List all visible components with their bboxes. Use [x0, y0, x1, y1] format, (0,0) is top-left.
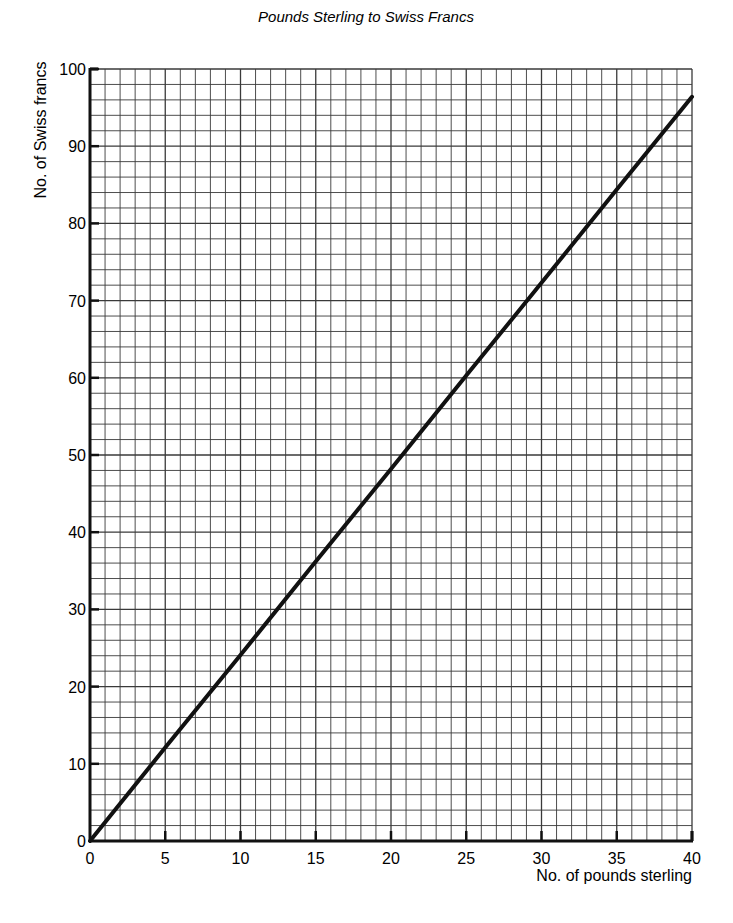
grid: [90, 69, 692, 841]
y-tick-label: 50: [68, 447, 86, 464]
y-tick-label: 0: [77, 833, 86, 850]
x-tick-label: 0: [86, 850, 95, 867]
x-tick-label: 5: [161, 850, 170, 867]
conversion-chart: Pounds Sterling to Swiss Francs 05101520…: [0, 0, 733, 923]
y-tick-label: 40: [68, 524, 86, 541]
x-tick-label: 40: [683, 850, 701, 867]
x-tick-label: 10: [232, 850, 250, 867]
x-tick-label: 30: [533, 850, 551, 867]
x-tick-label: 20: [382, 850, 400, 867]
y-axis-label: No. of Swiss francs: [32, 62, 49, 199]
y-tick-label: 100: [59, 61, 86, 78]
x-tick-label: 35: [608, 850, 626, 867]
y-tick-label: 20: [68, 679, 86, 696]
x-tick-label: 25: [457, 850, 475, 867]
y-tick-label: 30: [68, 601, 86, 618]
y-tick-label: 10: [68, 756, 86, 773]
tick-labels: 05101520253035400102030405060708090100: [59, 61, 701, 867]
x-axis-label: No. of pounds sterling: [536, 867, 692, 884]
chart-title: Pounds Sterling to Swiss Francs: [258, 8, 474, 25]
y-tick-label: 70: [68, 293, 86, 310]
y-tick-label: 90: [68, 138, 86, 155]
x-tick-label: 15: [307, 850, 325, 867]
y-tick-label: 80: [68, 215, 86, 232]
y-tick-label: 60: [68, 370, 86, 387]
